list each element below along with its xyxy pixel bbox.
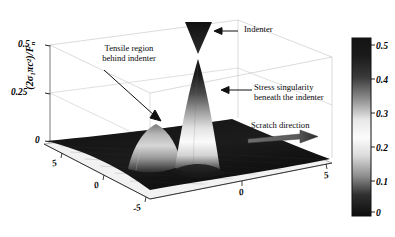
colorbar: [352, 38, 375, 216]
z-axis-ticks: [45, 45, 50, 142]
annotation-tensile-region: Tensile region behind indenter: [82, 44, 176, 63]
plot-canvas: [0, 0, 395, 237]
z-axis-label: (2σ1πc2)/Fn: [24, 20, 35, 112]
annotation-tensile-region-line2: behind indenter: [82, 54, 176, 64]
colorbar-tick-0.1: 0.1: [376, 176, 388, 187]
indenter-arrow: [214, 28, 238, 35]
tensile-region-arrow: [104, 70, 161, 121]
colorbar-tick-0: 0: [376, 207, 381, 218]
colorbar-tick-0.4: 0.4: [376, 74, 388, 85]
z-tick-0.25: 0.25: [11, 87, 27, 97]
annotation-stress-singularity: Stress singularity beneath the indenter: [254, 83, 376, 102]
colorbar-tick-0.2: 0.2: [376, 142, 388, 153]
colorbar-tick-0.5: 0.5: [376, 40, 388, 51]
z-tick-0.5: 0.5: [18, 39, 30, 49]
stress-singularity-peak: [175, 59, 220, 174]
annotation-indenter-line1: Indenter: [244, 24, 273, 34]
indenter-shape: [185, 22, 212, 54]
annotation-indenter: Indenter: [244, 25, 273, 35]
annotation-arrows: [104, 28, 252, 121]
z-tick-0: 0: [35, 135, 40, 145]
stress-singularity-arrow: [221, 87, 252, 94]
colorbar-tick-0.3: 0.3: [376, 108, 388, 119]
figure-3d-surface-plot: (2σ1πc2)/Fn 0.5 0.25 0 5 0 -5 0 5 Indent…: [0, 0, 395, 237]
x-tick-left-neg5: -5: [132, 202, 142, 214]
annotation-scratch-direction-line1: Scratch direction: [251, 120, 309, 130]
annotation-stress-singularity-line2: beneath the indenter: [254, 93, 376, 103]
annotation-scratch-direction: Scratch direction: [251, 121, 309, 131]
